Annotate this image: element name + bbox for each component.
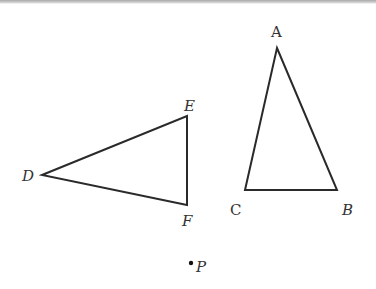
point-p-dot xyxy=(189,261,193,265)
triangle-abc xyxy=(245,48,337,190)
vertex-label-a: A xyxy=(270,23,282,41)
vertex-label-d: D xyxy=(21,167,34,185)
vertex-label-b: B xyxy=(341,201,353,219)
vertex-label-c: C xyxy=(230,201,241,219)
vertex-label-f: F xyxy=(181,212,193,230)
vertex-label-e: E xyxy=(183,97,195,115)
geometry-diagram: A B C D E F P xyxy=(0,0,376,289)
point-label-p: P xyxy=(195,258,207,276)
triangle-def xyxy=(42,116,187,205)
